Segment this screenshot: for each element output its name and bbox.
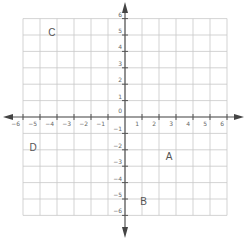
x-tick-label: −4 <box>45 120 54 127</box>
y-tick-label: −6 <box>113 207 122 214</box>
x-tick-label: 3 <box>169 120 173 127</box>
y-tick-label: −3 <box>113 158 122 165</box>
x-tick-label: −6 <box>11 120 20 127</box>
y-tick-label: −5 <box>113 191 122 198</box>
axes <box>3 2 244 238</box>
x-tick-label: −3 <box>62 120 71 127</box>
x-tick-label: 1 <box>135 120 139 127</box>
x-tick-label: −5 <box>28 120 37 127</box>
y-tick-label: −4 <box>113 175 122 182</box>
x-axis-right-arrow-icon <box>234 114 244 120</box>
y-tick-label: 4 <box>118 43 122 50</box>
coordinate-plane: −6−5−4−3−2−1123456 6543210−1−2−3−4−5−6 A… <box>0 0 246 240</box>
x-tick-label: 6 <box>220 120 224 127</box>
y-tick-label: −1 <box>113 125 122 132</box>
y-axis-down-arrow-icon <box>122 227 128 238</box>
point-label-a: A <box>166 151 173 162</box>
x-tick-label: 4 <box>186 120 190 127</box>
x-tick-label: 5 <box>203 120 207 127</box>
y-tick-label: 0 <box>118 107 122 114</box>
point-label-b: B <box>140 196 147 207</box>
x-tick-label: −1 <box>96 120 105 127</box>
y-tick-label: 1 <box>118 93 122 100</box>
y-tick-labels: 6543210−1−2−3−4−5−6 <box>113 11 122 215</box>
point-label-c: C <box>48 27 55 38</box>
point-label-d: D <box>30 142 37 153</box>
y-tick-label: 3 <box>118 60 122 67</box>
y-tick-label: 5 <box>118 27 122 34</box>
y-axis-up-arrow-icon <box>122 2 128 13</box>
x-tick-label: −2 <box>79 120 88 127</box>
y-tick-label: −2 <box>113 142 122 149</box>
x-tick-label: 2 <box>152 120 156 127</box>
y-tick-label: 2 <box>118 76 122 83</box>
y-tick-label: 6 <box>118 11 122 18</box>
